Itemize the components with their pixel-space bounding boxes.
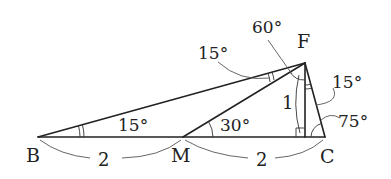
angle-arc-f-mfh	[290, 72, 305, 80]
dim-arc-mc-right	[275, 140, 323, 158]
angle-label-hfc: 15°	[332, 72, 362, 92]
angle-label-mfh: 60°	[252, 17, 282, 37]
angle-arc-b	[79, 126, 81, 137]
dim-arc-mc-left	[185, 140, 248, 158]
leader-15-bfm	[218, 62, 270, 79]
angle-arc-f-large	[296, 75, 300, 133]
length-label-mc: 2	[256, 149, 267, 170]
angle-arc-c	[311, 124, 321, 138]
angle-arc-b-2	[83, 125, 85, 137]
dim-arc-bm-left	[40, 140, 90, 158]
segment-bf	[38, 63, 305, 137]
angle-label-fcb: 75°	[338, 111, 368, 131]
point-label-b: B	[26, 144, 40, 166]
angle-arc-f-bfm	[272, 72, 274, 80]
angle-arc-f-hfc-2	[305, 88, 312, 89]
angle-arc-f-bfm-2	[268, 73, 270, 82]
point-label-m: M	[171, 144, 190, 166]
point-label-c: C	[320, 145, 335, 167]
right-angle-marker	[296, 128, 305, 137]
angle-label-fbc: 15°	[118, 115, 148, 135]
length-label-bm: 2	[98, 149, 109, 170]
angle-arc-f-hfc	[305, 84, 311, 85]
geometry-diagram: B M C F 15° 15° 30° 60° 15° 75° 2 2 1	[0, 0, 391, 179]
angle-label-fmc: 30°	[220, 115, 250, 135]
leader-60	[268, 40, 292, 74]
point-label-f: F	[297, 30, 310, 52]
angle-arc-m	[209, 122, 214, 138]
segment-fc	[305, 63, 325, 137]
angle-label-bfm: 15°	[198, 43, 228, 63]
length-label-fh: 1	[282, 92, 293, 113]
